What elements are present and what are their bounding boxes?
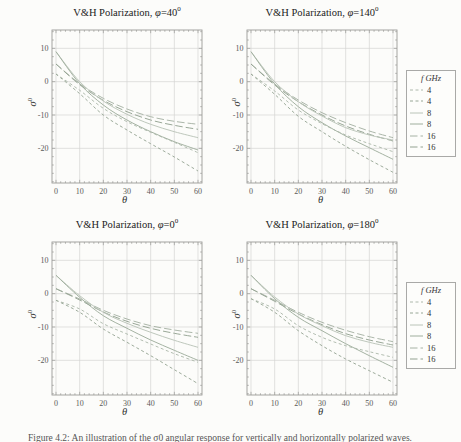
legend-entry-label: 4 [427, 297, 431, 307]
x-tick-label: 10 [271, 187, 279, 196]
x-tick-label: 50 [170, 187, 178, 196]
legend-entry: 4 [410, 296, 452, 308]
y-tick-label: 0 [240, 289, 244, 298]
legend-entry-label: 8 [427, 108, 431, 118]
legend-line-sample [410, 132, 423, 140]
x-tick-label: 60 [194, 187, 202, 196]
legend-entry: 16 [410, 130, 452, 142]
plot-canvas: 0102030405060100-10-20 [0, 12, 230, 212]
legend-line-sample [410, 321, 423, 329]
x-tick-label: 50 [365, 187, 373, 196]
legend-entry-label: 16 [427, 142, 436, 152]
x-tick-label: 0 [249, 399, 253, 408]
legend-entry-label: 4 [427, 308, 431, 318]
legend-line-sample [410, 344, 423, 352]
legend-entry: 16 [410, 142, 452, 154]
legend-line-sample [410, 309, 423, 317]
legend-entry-label: 16 [427, 343, 436, 353]
x-axis-label: θ [318, 406, 323, 417]
x-tick-label: 0 [54, 187, 58, 196]
legend-entry: 8 [410, 331, 452, 343]
x-tick-label: 40 [147, 399, 155, 408]
legend-line-sample [410, 298, 423, 306]
figure-grid: V&H Polarization, φ=400 σ0 0102030405060… [0, 0, 461, 424]
legend-entries: 44881616 [410, 84, 452, 153]
legend-entry: 16 [410, 354, 452, 366]
legend-line-sample [410, 86, 423, 94]
x-tick-label: 10 [76, 187, 84, 196]
legend-entry: 4 [410, 96, 452, 108]
legend-title: f GHz [410, 285, 452, 295]
legend-entry-label: 16 [427, 131, 436, 141]
legend-line-sample [410, 120, 423, 128]
legend-line-sample [410, 143, 423, 151]
plot-canvas: 0102030405060100-10-20 [0, 224, 230, 424]
legend-entry-label: 4 [427, 96, 431, 106]
legend-entries: 44881616 [410, 296, 452, 365]
legend-line-sample [410, 332, 423, 340]
subplot-phi-140: V&H Polarization, φ=1400 σ0 010203040506… [230, 0, 461, 212]
x-tick-label: 40 [342, 187, 350, 196]
legend-box: f GHz 44881616 [406, 282, 456, 369]
y-tick-label: -10 [233, 323, 244, 332]
subplot-phi-0: V&H Polarization, φ=00 σ0 01020304050601… [0, 212, 230, 424]
legend-line-sample [410, 355, 423, 363]
legend-box: f GHz 44881616 [406, 70, 456, 157]
x-tick-label: 60 [389, 187, 397, 196]
y-tick-label: -10 [38, 323, 49, 332]
y-tick-label: 0 [240, 77, 244, 86]
y-tick-label: -20 [233, 356, 244, 365]
x-tick-label: 20 [294, 399, 302, 408]
x-tick-label: 50 [365, 399, 373, 408]
x-axis-label: θ [318, 194, 323, 205]
legend-entry: 8 [410, 107, 452, 119]
y-tick-label: 0 [45, 289, 49, 298]
y-tick-label: 10 [41, 44, 49, 53]
x-tick-label: 20 [99, 399, 107, 408]
legend-entry: 16 [410, 342, 452, 354]
y-tick-label: 10 [236, 256, 244, 265]
y-tick-label: -20 [233, 144, 244, 153]
legend-title: f GHz [410, 73, 452, 83]
legend-entry: 8 [410, 319, 452, 331]
legend-entry-label: 16 [427, 354, 436, 364]
y-tick-label: -10 [38, 111, 49, 120]
x-tick-label: 60 [389, 399, 397, 408]
legend-entry-label: 4 [427, 85, 431, 95]
y-tick-label: -20 [38, 144, 49, 153]
x-tick-label: 10 [76, 399, 84, 408]
legend-line-sample [410, 109, 423, 117]
x-tick-label: 0 [249, 187, 253, 196]
x-tick-label: 40 [147, 187, 155, 196]
legend-entry: 8 [410, 119, 452, 131]
legend-entry-label: 8 [427, 331, 431, 341]
subplot-phi-180: V&H Polarization, φ=1800 σ0 010203040506… [230, 212, 461, 424]
x-tick-label: 20 [294, 187, 302, 196]
x-tick-label: 50 [170, 399, 178, 408]
y-tick-label: 10 [41, 256, 49, 265]
legend-entry: 4 [410, 308, 452, 320]
subplot-phi-40: V&H Polarization, φ=400 σ0 0102030405060… [0, 0, 230, 212]
figure-caption: Figure 4.2: An illustration of the σ0 an… [28, 433, 448, 442]
x-axis-label: θ [122, 194, 127, 205]
x-tick-label: 40 [342, 399, 350, 408]
y-tick-label: 10 [236, 44, 244, 53]
y-tick-label: -20 [38, 356, 49, 365]
x-tick-label: 20 [99, 187, 107, 196]
x-tick-label: 60 [194, 399, 202, 408]
legend-entry-label: 8 [427, 119, 431, 129]
legend-line-sample [410, 97, 423, 105]
legend-entry: 4 [410, 84, 452, 96]
x-tick-label: 10 [271, 399, 279, 408]
y-tick-label: -10 [233, 111, 244, 120]
y-tick-label: 0 [45, 77, 49, 86]
x-axis-label: θ [122, 406, 127, 417]
x-tick-label: 0 [54, 399, 58, 408]
legend-entry-label: 8 [427, 320, 431, 330]
